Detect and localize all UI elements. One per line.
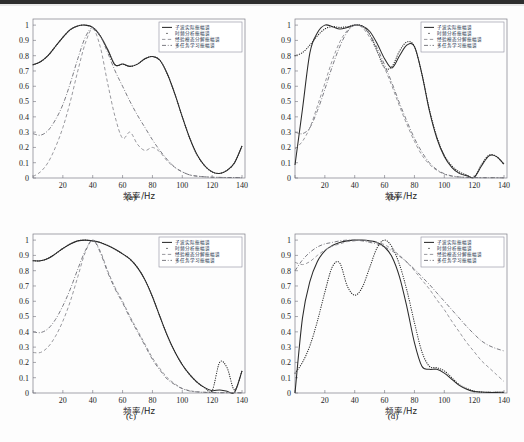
legend-label: 子波实际振幅谱: [437, 239, 472, 246]
plot-a-container: 00.10.20.30.40.50.60.70.80.9120406080100…: [0, 6, 262, 221]
x-tick-label: 60: [119, 181, 127, 190]
x-tick-label: 20: [59, 181, 67, 190]
caption-d: (d): [262, 411, 524, 421]
legend-label: 经验模态分解振幅谱: [175, 251, 220, 258]
legend-label: 多任务学习振幅谱: [175, 42, 215, 49]
x-tick-label: 120: [468, 396, 480, 405]
legend-label: 多任务学习振幅谱: [175, 257, 215, 264]
y-tick-label: 0.2: [281, 143, 291, 152]
x-tick-label: 140: [236, 181, 248, 190]
y-tick-label: 0: [287, 174, 291, 183]
y-tick-label: 1: [25, 236, 29, 245]
x-tick-label: 40: [89, 396, 97, 405]
y-tick-label: 0.6: [281, 82, 291, 91]
y-tick-label: 0.5: [281, 97, 291, 106]
x-tick-label: 60: [381, 181, 389, 190]
legend-marker-dotted: [166, 33, 167, 34]
x-tick-label: 120: [206, 396, 218, 405]
legend-label: 时频分析振幅谱: [175, 245, 210, 252]
x-tick-label: 20: [321, 396, 329, 405]
y-tick-label: 1: [287, 21, 291, 30]
legend-label: 经验模态分解振幅谱: [437, 36, 482, 43]
y-tick-label: 0.5: [19, 312, 29, 321]
panel-d: 00.10.20.30.40.50.60.70.80.9120406080100…: [262, 221, 524, 442]
caption-c: (c): [0, 411, 262, 421]
y-tick-label: 0: [25, 174, 29, 183]
y-tick-label: 0.5: [281, 312, 291, 321]
y-tick-label: 0.8: [19, 52, 29, 61]
y-tick-label: 0.1: [19, 159, 29, 168]
x-tick-label: 120: [206, 181, 218, 190]
x-tick-label: 100: [176, 181, 188, 190]
y-tick-label: 0.1: [19, 374, 29, 383]
y-tick-label: 0.1: [281, 159, 291, 168]
y-tick-label: 0.2: [281, 358, 291, 367]
y-tick-label: 0.8: [281, 52, 291, 61]
y-tick-label: 0.7: [281, 67, 291, 76]
y-tick-label: 0.9: [281, 36, 291, 45]
plot-d-container: 00.10.20.30.40.50.60.70.80.9120406080100…: [262, 221, 524, 442]
legend-label: 多任务学习振幅谱: [437, 257, 477, 264]
y-tick-label: 0.9: [19, 36, 29, 45]
y-tick-label: 0.2: [19, 143, 29, 152]
legend: 子波实际振幅谱时频分析振幅谱经验模态分解振幅谱多任务学习振幅谱: [159, 237, 242, 267]
x-tick-label: 60: [381, 396, 389, 405]
legend-label: 时频分析振幅谱: [437, 30, 472, 37]
y-tick-label: 0.3: [281, 343, 291, 352]
x-tick-label: 100: [438, 181, 450, 190]
y-tick-label: 0.7: [19, 67, 29, 76]
y-tick-label: 1: [287, 236, 291, 245]
x-tick-label: 40: [351, 181, 359, 190]
x-tick-label: 140: [498, 181, 510, 190]
legend-label: 子波实际振幅谱: [437, 24, 472, 31]
legend-label: 经验模态分解振幅谱: [437, 251, 482, 258]
legend-marker-dotted: [428, 33, 429, 34]
y-tick-label: 0.6: [19, 82, 29, 91]
x-tick-label: 100: [176, 396, 188, 405]
panel-c: 00.10.20.30.40.50.60.70.80.9120406080100…: [0, 221, 262, 442]
legend-label: 时频分析振幅谱: [437, 245, 472, 252]
x-tick-label: 40: [351, 396, 359, 405]
y-tick-label: 0.6: [281, 297, 291, 306]
legend-label: 多任务学习振幅谱: [437, 42, 477, 49]
y-tick-label: 0.7: [19, 282, 29, 291]
y-tick-label: 0.4: [19, 328, 29, 337]
y-tick-label: 0.3: [19, 128, 29, 137]
y-tick-label: 0.6: [19, 297, 29, 306]
y-tick-label: 0.3: [281, 128, 291, 137]
figure-sheet: 00.10.20.30.40.50.60.70.80.9120406080100…: [0, 0, 524, 442]
y-tick-label: 0: [287, 389, 291, 398]
y-tick-label: 0.8: [281, 267, 291, 276]
y-tick-label: 0.7: [281, 282, 291, 291]
x-tick-label: 140: [498, 396, 510, 405]
legend-label: 子波实际振幅谱: [175, 239, 210, 246]
x-tick-label: 120: [468, 181, 480, 190]
y-tick-label: 0.4: [19, 113, 29, 122]
y-tick-label: 0.9: [281, 251, 291, 260]
caption-b: (b): [262, 192, 524, 202]
legend-label: 时频分析振幅谱: [175, 30, 210, 37]
x-tick-label: 100: [438, 396, 450, 405]
x-tick-label: 140: [236, 396, 248, 405]
x-tick-label: 80: [410, 181, 418, 190]
x-tick-label: 80: [410, 396, 418, 405]
plot-c-container: 00.10.20.30.40.50.60.70.80.9120406080100…: [0, 221, 262, 442]
plot-b-container: 00.10.20.30.40.50.60.70.80.9120406080100…: [262, 6, 524, 221]
legend-label: 经验模态分解振幅谱: [175, 36, 220, 43]
y-tick-label: 0.5: [19, 97, 29, 106]
legend-marker-dotted: [166, 248, 167, 249]
x-tick-label: 80: [148, 396, 156, 405]
x-tick-label: 20: [321, 181, 329, 190]
x-tick-label: 40: [89, 181, 97, 190]
panel-b: 00.10.20.30.40.50.60.70.80.9120406080100…: [262, 6, 524, 221]
y-tick-label: 0: [25, 389, 29, 398]
panel-grid: 00.10.20.30.40.50.60.70.80.9120406080100…: [0, 6, 524, 442]
y-tick-label: 0.8: [19, 267, 29, 276]
legend: 子波实际振幅谱时频分析振幅谱经验模态分解振幅谱多任务学习振幅谱: [421, 22, 504, 52]
y-tick-label: 0.3: [19, 343, 29, 352]
legend-marker-dotted: [428, 248, 429, 249]
panel-a: 00.10.20.30.40.50.60.70.80.9120406080100…: [0, 6, 262, 221]
y-tick-label: 0.4: [281, 113, 291, 122]
y-tick-label: 1: [25, 21, 29, 30]
legend: 子波实际振幅谱时频分析振幅谱经验模态分解振幅谱多任务学习振幅谱: [159, 22, 242, 52]
